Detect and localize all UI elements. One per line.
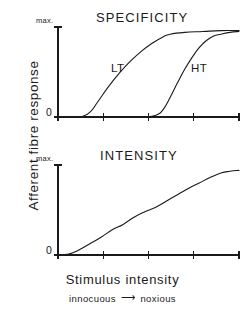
chart-title-intensity: INTENSITY: [100, 148, 178, 163]
x-axis-sublabel-left: innocuous: [69, 293, 116, 304]
arrow-icon: ⟶: [121, 292, 135, 303]
figure-container: Afferent fibre response SPECIFICITY max.…: [0, 0, 245, 316]
chart-title-specificity: SPECIFICITY: [96, 10, 188, 25]
series-label-ht: HT: [191, 62, 207, 74]
series-label-lt: LT: [111, 62, 125, 74]
y-axis-max-label-specificity: max.: [36, 16, 53, 25]
x-axis-sublabel-right: noxious: [140, 293, 176, 304]
y-axis-label: Afferent fibre response: [26, 11, 41, 261]
axes-specificity: [54, 27, 239, 121]
curve-lt: [58, 31, 239, 118]
y-axis-zero-label-specificity: 0: [46, 106, 52, 118]
curve-ht: [58, 32, 239, 118]
y-axis-zero-label-intensity: 0: [46, 244, 52, 256]
curve-intensity: [58, 170, 239, 255]
y-axis-max-label-intensity: max.: [36, 154, 53, 163]
x-axis-label: Stimulus intensity: [0, 272, 245, 287]
x-axis-sublabel: innocuous ⟶ noxious: [0, 292, 245, 304]
axes-intensity: [54, 165, 239, 259]
